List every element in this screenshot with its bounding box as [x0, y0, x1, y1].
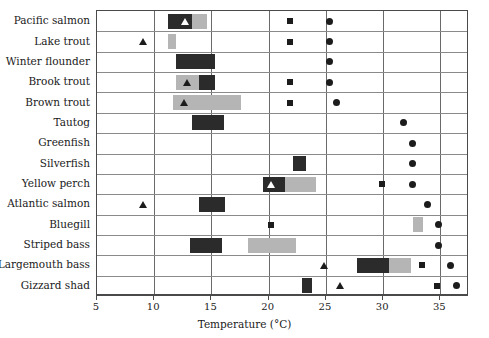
x-tick — [210, 295, 211, 300]
x-tick — [96, 295, 97, 300]
x-axis-line — [96, 295, 468, 296]
range-bar — [176, 54, 215, 69]
row-separator — [97, 174, 467, 175]
row-label: Silverfish — [40, 157, 90, 169]
x-tick — [382, 295, 383, 300]
square-marker — [379, 181, 385, 187]
row-separator — [97, 194, 467, 195]
x-tick-label: 20 — [261, 301, 274, 313]
range-bar — [357, 258, 389, 273]
row-label: Yellow perch — [22, 177, 90, 189]
circle-marker — [435, 242, 442, 249]
row-separator — [97, 31, 467, 32]
range-bar — [190, 238, 222, 253]
row-label: Greenfish — [38, 136, 90, 148]
triangle-marker — [267, 181, 275, 188]
range-bar — [192, 115, 224, 130]
triangle-marker — [180, 99, 188, 106]
triangle-marker — [320, 262, 328, 269]
x-tick — [268, 295, 269, 300]
row-separator — [97, 215, 467, 216]
range-bar — [293, 156, 307, 171]
square-marker — [287, 18, 293, 24]
category-labels: Pacific salmonLake troutWinter flounderB… — [0, 10, 90, 295]
row-label: Brook trout — [28, 75, 90, 87]
row-label: Winter flounder — [6, 55, 90, 67]
row-label: Gizzard shad — [21, 279, 90, 291]
triangle-marker — [183, 79, 191, 86]
triangle-marker — [139, 201, 147, 208]
circle-marker — [333, 99, 340, 106]
range-bar — [199, 75, 215, 90]
gridline — [326, 11, 327, 294]
row-separator — [97, 235, 467, 236]
circle-marker — [409, 140, 416, 147]
x-tick-label: 25 — [319, 301, 332, 313]
circle-marker — [447, 262, 454, 269]
x-tick — [439, 295, 440, 300]
x-tick-label: 5 — [93, 301, 99, 313]
triangle-marker — [139, 38, 147, 45]
square-marker — [287, 39, 293, 45]
row-separator — [97, 276, 467, 277]
square-marker — [287, 79, 293, 85]
square-marker — [419, 262, 425, 268]
x-tick — [153, 295, 154, 300]
row-separator — [97, 133, 467, 134]
row-label: Bluegill — [49, 218, 90, 230]
plot-area — [96, 10, 468, 295]
triangle-marker — [181, 18, 189, 25]
gridline — [440, 11, 441, 294]
triangle-marker — [336, 282, 344, 289]
row-label: Atlantic salmon — [7, 197, 90, 209]
row-label: Largemouth bass — [0, 258, 90, 270]
x-tick-label: 10 — [147, 301, 160, 313]
row-label: Striped bass — [23, 238, 90, 250]
row-separator — [97, 52, 467, 53]
x-tick-label: 35 — [433, 301, 446, 313]
circle-marker — [326, 18, 333, 25]
temperature-range-chart: Pacific salmonLake troutWinter flounderB… — [0, 0, 489, 338]
gridline — [383, 11, 384, 294]
circle-marker — [435, 221, 442, 228]
square-marker — [287, 100, 293, 106]
range-bar — [192, 14, 207, 29]
gridline — [154, 11, 155, 294]
range-bar — [168, 34, 176, 49]
circle-marker — [326, 58, 333, 65]
circle-marker — [326, 79, 333, 86]
square-marker — [434, 283, 440, 289]
circle-marker — [400, 119, 407, 126]
square-marker — [268, 222, 274, 228]
circle-marker — [424, 201, 431, 208]
circle-marker — [326, 38, 333, 45]
x-tick-label: 15 — [204, 301, 217, 313]
row-separator — [97, 255, 467, 256]
range-bar — [413, 217, 423, 232]
x-tick-label: 30 — [376, 301, 389, 313]
row-label: Brown trout — [25, 96, 90, 108]
circle-marker — [409, 181, 416, 188]
row-label: Pacific salmon — [14, 14, 90, 26]
row-label: Lake trout — [34, 35, 90, 47]
range-bar — [285, 177, 316, 192]
row-separator — [97, 92, 467, 93]
range-bar — [248, 238, 296, 253]
range-bar — [199, 197, 225, 212]
row-separator — [97, 154, 467, 155]
row-separator — [97, 113, 467, 114]
x-tick — [325, 295, 326, 300]
range-bar — [389, 258, 411, 273]
circle-marker — [409, 160, 416, 167]
range-bar — [302, 278, 312, 293]
x-axis-title: Temperature (°C) — [0, 318, 489, 330]
circle-marker — [453, 282, 460, 289]
row-separator — [97, 72, 467, 73]
row-label: Tautog — [54, 116, 90, 128]
